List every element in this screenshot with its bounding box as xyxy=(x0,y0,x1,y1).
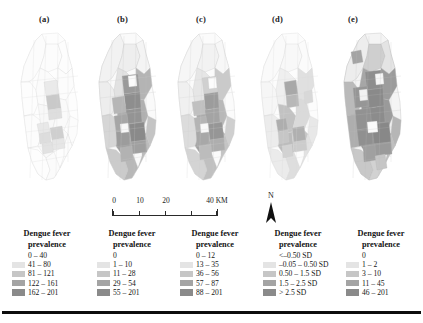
legend-class-label: 0 xyxy=(113,251,117,260)
legend-swatch xyxy=(180,252,193,259)
legend-class-label: 0.50 – 1.5 SD xyxy=(279,269,321,278)
legend-row: 0.50 – 1.5 SD xyxy=(255,269,341,278)
legend-swatch xyxy=(346,271,359,278)
scale-bar-track xyxy=(112,209,218,216)
legend-row: 11 – 28 xyxy=(89,269,175,278)
panel-label-b: (b) xyxy=(117,14,128,24)
legend-panel-d: Dengue fever prevalence <–0.50 SD –0.05 … xyxy=(255,229,341,297)
legend-swatch xyxy=(97,262,110,269)
legend-title-d-line1: Dengue fever xyxy=(255,229,341,240)
legend-class-label: 0 – 12 xyxy=(196,251,215,260)
legend-swatch xyxy=(263,289,276,296)
legend-class-label: 11 – 45 xyxy=(362,279,385,288)
legend-row: 36 – 56 xyxy=(172,269,258,278)
legend-swatch xyxy=(346,252,359,259)
legend-row: 1 – 2 xyxy=(338,260,423,269)
legend-swatch xyxy=(346,289,359,296)
legend-panel-e: Dengue fever prevalence 0 1 – 2 3 – 10 1… xyxy=(338,229,423,297)
legend-class-label: 29 – 54 xyxy=(113,279,136,288)
legend-panel-a: Dengue fever prevalence 0 – 40 41 – 80 8… xyxy=(4,229,90,297)
legend-title-c-line2: prevalence xyxy=(172,240,258,251)
legend-row: 0 – 40 xyxy=(4,251,90,260)
panel-label-a: (a) xyxy=(39,14,50,24)
legend-class-label: > 2.5 SD xyxy=(279,288,306,297)
legend-row: 0 xyxy=(89,251,175,260)
scale-bar-labels: 0 10 20 40 KM xyxy=(112,196,230,207)
north-arrow: N xyxy=(258,191,284,227)
legend-class-label: 88 – 201 xyxy=(196,288,223,297)
legend-class-label: 46 – 201 xyxy=(362,288,389,297)
legend-class-label: <–0.50 SD xyxy=(279,251,312,260)
legend-swatch xyxy=(97,280,110,287)
legend-class-label: 81 – 121 xyxy=(28,269,55,278)
panel-label-d: (d) xyxy=(272,14,283,24)
legend-class-label: 41 – 80 xyxy=(28,260,51,269)
legend-class-label: 1 – 10 xyxy=(113,260,132,269)
legend-swatch xyxy=(263,271,276,278)
legend-title-e-line1: Dengue fever xyxy=(338,229,423,240)
legend-classes-e: 0 1 – 2 3 – 10 11 – 45 46 – 201 xyxy=(338,251,423,297)
panel-label-c: (c) xyxy=(196,14,206,24)
legend-panel-b: Dengue fever prevalence 0 1 – 10 11 – 28… xyxy=(89,229,175,297)
scale-tick-label-10: 10 xyxy=(136,196,144,205)
map-panel-c xyxy=(165,28,249,186)
legend-row: 3 – 10 xyxy=(338,269,423,278)
legend-row: 55 – 201 xyxy=(89,288,175,297)
legend-row: 46 – 201 xyxy=(338,288,423,297)
legend-title-a-line2: prevalence xyxy=(4,240,90,251)
legend-class-label: 57 – 87 xyxy=(196,279,219,288)
legend-row: 162 – 201 xyxy=(4,288,90,297)
north-arrow-label: N xyxy=(258,191,284,201)
legend-swatch xyxy=(180,280,193,287)
legend-class-label: –0.05 – 0.50 SD xyxy=(279,260,329,269)
legend-class-label: 3 – 10 xyxy=(362,269,381,278)
map-panel-b xyxy=(86,28,170,186)
legend-class-label: 36 – 56 xyxy=(196,269,219,278)
legend-row: 122 – 161 xyxy=(4,279,90,288)
dengue-fever-prevalence-figure: (a) (b) (c) (d) (e) xyxy=(0,0,423,323)
legend-title-c-line1: Dengue fever xyxy=(172,229,258,240)
legend-class-label: 162 – 201 xyxy=(28,288,58,297)
legend-swatch xyxy=(12,271,25,278)
legend-swatch xyxy=(263,280,276,287)
legend-title-d-line2: prevalence xyxy=(255,240,341,251)
scale-bar: 0 10 20 40 KM xyxy=(112,196,230,218)
legend-row: 81 – 121 xyxy=(4,269,90,278)
legend-classes-d: <–0.50 SD –0.05 – 0.50 SD 0.50 – 1.5 SD … xyxy=(255,251,341,297)
legend-swatch xyxy=(263,262,276,269)
legend-row: 88 – 201 xyxy=(172,288,258,297)
map-panel-a xyxy=(8,28,92,186)
legend-class-label: 0 xyxy=(362,251,366,260)
legend-row: 0 – 12 xyxy=(172,251,258,260)
legend-panel-c: Dengue fever prevalence 0 – 12 13 – 35 3… xyxy=(172,229,258,297)
legend-classes-b: 0 1 – 10 11 – 28 29 – 54 55 – 201 xyxy=(89,251,175,297)
legend-row: 13 – 35 xyxy=(172,260,258,269)
legend-swatch xyxy=(180,289,193,296)
legend-class-label: 1.5 – 2.5 SD xyxy=(279,279,317,288)
legend-swatch xyxy=(97,271,110,278)
legend-swatch xyxy=(12,280,25,287)
legend-class-label: 13 – 35 xyxy=(196,260,219,269)
legend-class-label: 0 – 40 xyxy=(28,251,47,260)
legend-swatch xyxy=(97,289,110,296)
panel-label-e: (e) xyxy=(348,14,358,24)
legend-row: –0.05 – 0.50 SD xyxy=(255,260,341,269)
legend-swatch xyxy=(12,289,25,296)
legend-row: > 2.5 SD xyxy=(255,288,341,297)
scale-tick-label-0: 0 xyxy=(112,196,116,205)
legend-row: <–0.50 SD xyxy=(255,251,341,260)
legend-classes-a: 0 – 40 41 – 80 81 – 121 122 – 161 162 – … xyxy=(4,251,90,297)
legend-swatch xyxy=(12,262,25,269)
map-panel-e xyxy=(331,28,415,186)
legend-swatch xyxy=(346,280,359,287)
legend-swatch xyxy=(346,262,359,269)
legend-title-b-line2: prevalence xyxy=(89,240,175,251)
legend-class-label: 11 – 28 xyxy=(113,269,136,278)
legend-swatch xyxy=(97,252,110,259)
legend-row: 1.5 – 2.5 SD xyxy=(255,279,341,288)
legend-class-label: 122 – 161 xyxy=(28,279,58,288)
scale-tick-label-20: 20 xyxy=(162,196,170,205)
scale-tick-label-40: 40 KM xyxy=(206,196,227,205)
legend-swatch xyxy=(263,252,276,259)
legend-title-b-line1: Dengue fever xyxy=(89,229,175,240)
